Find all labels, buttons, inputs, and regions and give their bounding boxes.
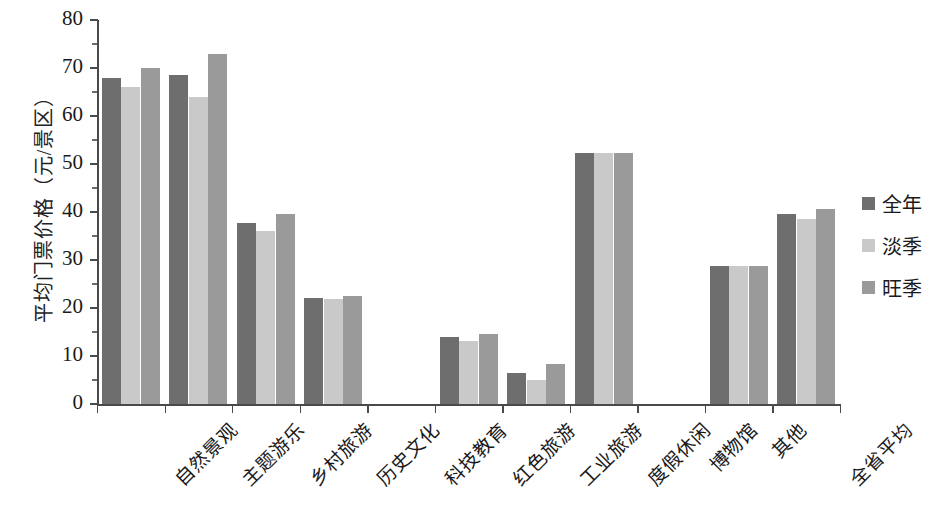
x-axis-tick bbox=[570, 404, 571, 413]
bar bbox=[594, 153, 613, 404]
legend-swatch-icon bbox=[862, 281, 875, 294]
x-axis-tick bbox=[232, 404, 233, 413]
bar bbox=[208, 54, 227, 404]
x-axis-label: 乡村旅游 bbox=[303, 416, 377, 490]
x-axis-tick bbox=[435, 404, 436, 413]
x-axis-label: 博物馆 bbox=[702, 416, 762, 476]
legend-item: 全年 bbox=[862, 182, 946, 224]
x-axis-tick bbox=[840, 404, 841, 413]
y-axis-tick-label: 30 bbox=[62, 247, 83, 269]
x-axis-line bbox=[97, 404, 841, 406]
bar-group bbox=[237, 20, 295, 404]
x-axis-label: 历史文化 bbox=[370, 416, 444, 490]
x-axis-tick bbox=[772, 404, 773, 413]
y-axis-tick-label: 50 bbox=[62, 151, 83, 173]
x-axis-label: 红色旅游 bbox=[505, 416, 579, 490]
bar-group bbox=[575, 20, 633, 404]
y-axis-tick-label: 10 bbox=[62, 343, 83, 365]
x-axis-tick bbox=[705, 404, 706, 413]
y-axis-tick-label: 0 bbox=[73, 391, 84, 413]
plot-area bbox=[97, 20, 840, 404]
x-axis-label: 全省平均 bbox=[843, 416, 917, 490]
bar bbox=[777, 214, 796, 404]
bar bbox=[440, 337, 459, 404]
y-axis-tick-label: 60 bbox=[62, 103, 83, 125]
x-axis-label: 科技教育 bbox=[438, 416, 512, 490]
bar bbox=[749, 266, 768, 404]
legend-swatch-icon bbox=[862, 239, 875, 252]
bar bbox=[710, 266, 729, 404]
x-axis-label: 度假休闲 bbox=[640, 416, 714, 490]
bar bbox=[527, 380, 546, 404]
bar bbox=[459, 341, 478, 404]
bar-group bbox=[372, 20, 430, 404]
y-axis-tick-label: 80 bbox=[62, 7, 83, 29]
y-axis-tick-label: 20 bbox=[62, 295, 83, 317]
bar bbox=[141, 68, 160, 404]
bar bbox=[816, 209, 835, 404]
bar bbox=[546, 364, 565, 404]
x-axis-label: 工业旅游 bbox=[573, 416, 647, 490]
bar bbox=[189, 97, 208, 404]
legend-item: 淡季 bbox=[862, 224, 946, 266]
bar bbox=[729, 266, 748, 404]
legend-label: 旺季 bbox=[882, 273, 922, 302]
bar bbox=[256, 231, 275, 404]
bar bbox=[169, 75, 188, 404]
bar bbox=[614, 153, 633, 404]
bar-group bbox=[102, 20, 160, 404]
bar bbox=[343, 296, 362, 404]
bar bbox=[304, 298, 323, 404]
x-axis-label: 主题游乐 bbox=[235, 416, 309, 490]
bar-group bbox=[642, 20, 700, 404]
bar-group bbox=[169, 20, 227, 404]
legend-label: 全年 bbox=[882, 189, 922, 218]
y-axis-tick-label: 70 bbox=[62, 55, 83, 77]
bar-group bbox=[304, 20, 362, 404]
bar-group bbox=[710, 20, 768, 404]
bar-chart: 平均门票价格（元/景区） 01020304050607080 自然景观主题游乐乡… bbox=[0, 0, 946, 531]
chart-legend: 全年淡季旺季 bbox=[862, 182, 946, 308]
y-axis-title: 平均门票价格（元/景区） bbox=[28, 45, 57, 365]
bar bbox=[237, 223, 256, 404]
x-axis-tick bbox=[300, 404, 301, 413]
bar bbox=[797, 219, 816, 404]
x-axis-tick bbox=[502, 404, 503, 413]
bar bbox=[507, 373, 526, 404]
bar bbox=[479, 334, 498, 404]
x-axis-tick bbox=[367, 404, 368, 413]
bar-group bbox=[507, 20, 565, 404]
x-axis-tick bbox=[97, 404, 98, 413]
bar bbox=[575, 153, 594, 404]
x-axis-label: 其他 bbox=[764, 416, 811, 463]
bar bbox=[324, 299, 343, 404]
bar bbox=[276, 214, 295, 404]
legend-item: 旺季 bbox=[862, 266, 946, 308]
bar-group bbox=[777, 20, 835, 404]
bar bbox=[102, 78, 121, 404]
bar-group bbox=[440, 20, 498, 404]
y-axis-tick-label: 40 bbox=[62, 199, 83, 221]
x-axis-tick bbox=[165, 404, 166, 413]
x-axis-label: 自然景观 bbox=[168, 416, 242, 490]
legend-label: 淡季 bbox=[882, 231, 922, 260]
x-axis-tick bbox=[637, 404, 638, 413]
legend-swatch-icon bbox=[862, 197, 875, 210]
bar bbox=[121, 87, 140, 404]
